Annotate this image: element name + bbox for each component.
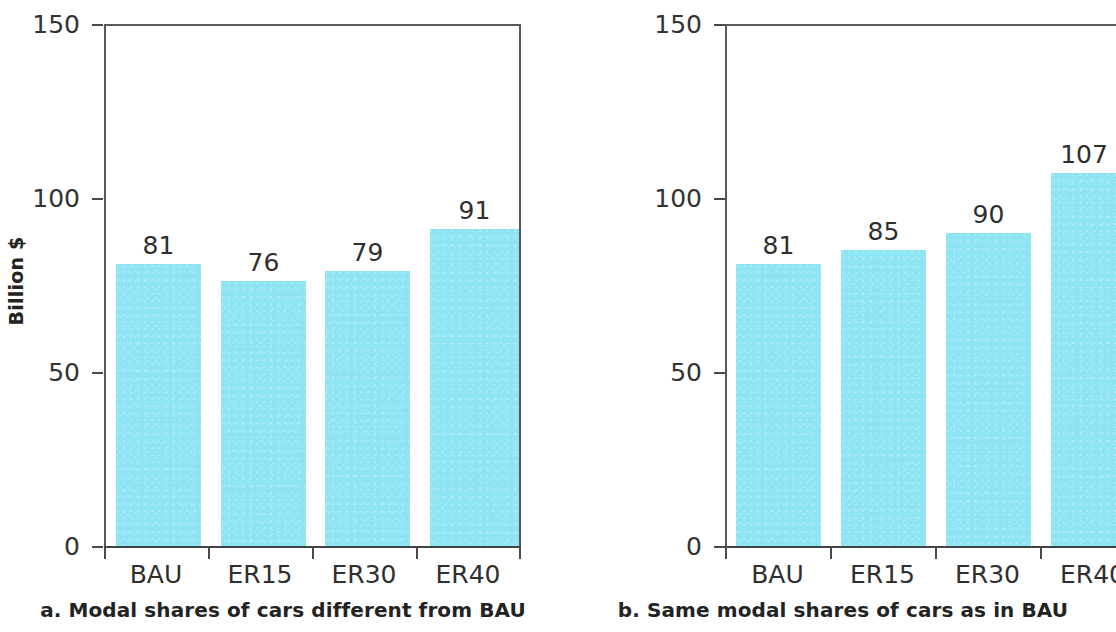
y-tick-label-0-b: 0 [640,534,702,559]
x-axis-label-bau-a: BAU [104,562,208,587]
y-tick-mark-0-b [714,546,725,548]
plot-frame-right-a [519,24,521,547]
bar-value-bau-b: 81 [736,233,821,258]
bar-value-er15-b: 85 [841,219,926,244]
plot-frame-top-b [725,24,1116,26]
bar-er15-a [221,281,306,546]
bar-er30-b [946,233,1031,546]
plot-frame-left-a [104,24,106,547]
x-axis-label-er40-a: ER40 [416,562,520,587]
bar-value-er40-a: 91 [430,198,519,223]
x-axis-label-er30-a: ER30 [312,562,416,587]
y-tick-mark-150-a [92,24,103,26]
x-tick-mark-2-a [312,546,314,559]
x-tick-mark-0-a [104,546,106,559]
x-tick-mark-2-b [935,546,937,559]
bar-er30-a [325,271,410,546]
y-tick-mark-100-a [92,198,103,200]
y-tick-mark-150-b [714,24,725,26]
x-tick-mark-0-b [725,546,727,559]
bar-er15-b [841,250,926,546]
y-axis-label-a: Billion $ [5,221,27,341]
chart-panel-a: Billion $ 150 100 50 0 81 76 79 91 BA [0,0,558,632]
y-tick-label-150-b: 150 [640,12,702,37]
y-tick-mark-50-b [714,372,725,374]
panel-caption-b: b. Same modal shares of cars as in BAU [564,598,1116,622]
x-tick-mark-3-b [1040,546,1042,559]
bar-value-er40-b: 107 [1045,142,1116,167]
bar-er40-b [1051,173,1116,546]
x-axis-label-er15-b: ER15 [830,562,935,587]
bar-value-er30-a: 79 [325,240,410,265]
x-axis-label-er40-b: ER40 [1040,562,1116,587]
x-tick-mark-3-a [416,546,418,559]
y-tick-label-0-a: 0 [18,534,80,559]
y-tick-label-100-b: 100 [640,186,702,211]
x-axis-label-er15-a: ER15 [208,562,312,587]
chart-panel-b: Billion $ 150 100 50 0 81 85 90 107 BAU … [558,0,1116,632]
x-tick-mark-1-a [208,546,210,559]
y-tick-mark-0-a [92,546,103,548]
plot-frame-top-a [104,24,521,26]
bar-bau-a [116,264,201,546]
bar-value-er15-a: 76 [221,250,306,275]
panel-caption-a: a. Modal shares of cars different from B… [4,598,562,622]
y-tick-mark-100-b [714,198,725,200]
x-tick-mark-1-b [830,546,832,559]
bar-value-er30-b: 90 [946,202,1031,227]
y-tick-mark-50-a [92,372,103,374]
plot-frame-left-b [725,24,727,547]
x-axis-label-bau-b: BAU [725,562,830,587]
bar-bau-b [736,264,821,546]
y-tick-label-50-a: 50 [18,360,80,385]
bar-value-bau-a: 81 [116,233,201,258]
figure-two-bar-charts: Billion $ 150 100 50 0 81 76 79 91 BA [0,0,1116,632]
x-axis-label-er30-b: ER30 [935,562,1040,587]
y-tick-label-100-a: 100 [18,186,80,211]
y-tick-label-150-a: 150 [18,12,80,37]
bar-er40-a [430,229,519,546]
y-tick-label-50-b: 50 [640,360,702,385]
plot-frame-bottom-b [725,546,1116,548]
x-tick-mark-4-a [519,546,521,559]
